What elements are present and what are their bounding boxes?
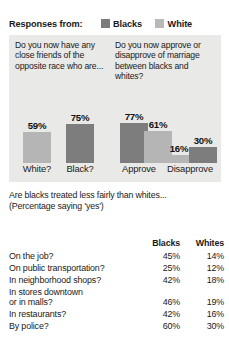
bar-slot-white-friends: 59%	[23, 97, 51, 163]
row-blacks-job: 45%	[140, 250, 180, 262]
row-label-stores-line1: In stores downtown	[9, 287, 83, 297]
fairness-table: Blacks Whites On the job? 45% 14% On pub…	[9, 238, 224, 332]
table-row: In neighborhood shops? 42% 18%	[9, 274, 224, 286]
table-row: In restaurants? 42% 16%	[9, 308, 224, 320]
table-row: In stores downtown or in malls? 46% 19%	[9, 286, 224, 309]
row-whites-police: 30%	[180, 320, 224, 332]
bar-1	[66, 124, 94, 163]
table-header-label	[9, 238, 140, 250]
row-blacks-police: 60%	[140, 320, 180, 332]
chart-panel: Do you now have any close friends of the…	[9, 35, 221, 182]
table-row: By police? 60% 30%	[9, 320, 224, 332]
row-blacks-shops: 42%	[140, 274, 180, 286]
bar-5	[189, 147, 217, 163]
legend-label-blacks: Blacks	[113, 19, 142, 29]
legend-entry-blacks: Blacks	[101, 19, 143, 29]
row-label-stores-line2: or in malls?	[9, 297, 53, 307]
legend-swatch-blacks-icon	[101, 19, 110, 28]
axis-labels: White? Black? Approve Disapprove	[9, 163, 221, 179]
legend-label-whites: White	[168, 19, 193, 29]
row-label-transportation: On public transportation?	[9, 262, 140, 274]
question-right: Do you now approve or disapprove of marr…	[115, 40, 218, 82]
axis-label-disapprove: Disapprove	[161, 163, 219, 174]
axis-label-black: Black?	[58, 163, 102, 174]
row-whites-transportation: 12%	[180, 262, 224, 274]
row-whites-stores: 19%	[180, 286, 224, 309]
row-whites-shops: 18%	[180, 274, 224, 286]
row-blacks-transportation: 25%	[140, 262, 180, 274]
table-body: On the job? 45% 14% On public transporta…	[9, 250, 224, 332]
bar-value-1: 75%	[63, 112, 97, 123]
bar-slot-disapprove-blacks: 30%	[189, 97, 217, 163]
legend: Responses from: Blacks White	[9, 16, 223, 31]
row-whites-job: 14%	[180, 250, 224, 262]
row-whites-restaurants: 16%	[180, 308, 224, 320]
axis-label-white: White?	[15, 163, 59, 174]
row-label-restaurants: In restaurants?	[9, 308, 140, 320]
bar-0	[23, 132, 51, 163]
table-row: On public transportation? 25% 12%	[9, 262, 224, 274]
table-header-row: Blacks Whites	[9, 238, 224, 250]
fairness-table-block: Blacks Whites On the job? 45% 14% On pub…	[9, 238, 224, 332]
lower-heading-line2: (Percentage saying 'yes')	[9, 201, 224, 212]
row-label-police: By police?	[9, 320, 140, 332]
row-label-job: On the job?	[9, 250, 140, 262]
table-head: Blacks Whites	[9, 238, 224, 250]
bar-value-0: 59%	[20, 120, 54, 131]
row-label-stores: In stores downtown or in malls?	[9, 286, 140, 309]
bar-value-5: 30%	[186, 135, 220, 146]
lower-heading-line1: Are blacks treated less fairly than whit…	[9, 190, 224, 201]
legend-title: Responses from:	[9, 19, 83, 29]
axis-label-approve: Approve	[112, 163, 166, 174]
table-header-blacks: Blacks	[140, 238, 180, 250]
bar-slot-black-friends: 75%	[66, 97, 94, 163]
table-header-whites: Whites	[180, 238, 224, 250]
row-blacks-stores: 46%	[140, 286, 180, 309]
table-row: On the job? 45% 14%	[9, 250, 224, 262]
legend-entry-whites: White	[155, 19, 192, 29]
infographic-page: Responses from: Blacks White Do you now …	[0, 0, 229, 351]
row-blacks-restaurants: 42%	[140, 308, 180, 320]
lower-heading: Are blacks treated less fairly than whit…	[9, 190, 224, 213]
question-left: Do you now have any close friends of the…	[15, 40, 109, 71]
bar-plot: 59% 75% 77% 61% 16% 30%	[9, 97, 221, 163]
legend-swatch-whites-icon	[155, 19, 164, 28]
question-row: Do you now have any close friends of the…	[9, 40, 221, 102]
row-label-shops: In neighborhood shops?	[9, 274, 140, 286]
